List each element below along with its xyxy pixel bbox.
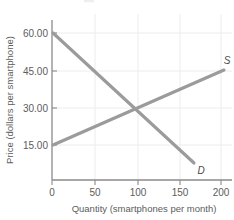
y-tick-label-15: 15.00 — [23, 140, 48, 151]
y-axis-ticks — [52, 33, 57, 145]
y-axis-title: Price (dollars per smartphone) — [4, 36, 15, 164]
x-tick-label-150: 150 — [172, 187, 189, 198]
x-axis-title: Quantity (smartphones per month) — [72, 203, 217, 214]
y-tick-label-45: 45.00 — [23, 66, 48, 77]
demand-curve — [53, 33, 194, 163]
top-crop-artifact — [84, 0, 94, 2]
supply-curve-label: S — [224, 55, 231, 66]
y-tick-label-60: 60.00 — [23, 28, 48, 39]
y-tick-label-30: 30.00 — [23, 103, 48, 114]
x-tick-label-200: 200 — [213, 187, 230, 198]
gridlines — [52, 14, 232, 180]
x-tick-label-50: 50 — [89, 187, 101, 198]
chart-canvas: 60.00 45.00 30.00 15.00 0 50 100 150 200… — [0, 0, 234, 220]
x-tick-label-0: 0 — [49, 187, 55, 198]
supply-demand-chart: 60.00 45.00 30.00 15.00 0 50 100 150 200… — [0, 0, 234, 220]
demand-curve-label: D — [197, 165, 204, 176]
x-axis-ticks — [52, 180, 221, 185]
x-tick-label-100: 100 — [130, 187, 147, 198]
